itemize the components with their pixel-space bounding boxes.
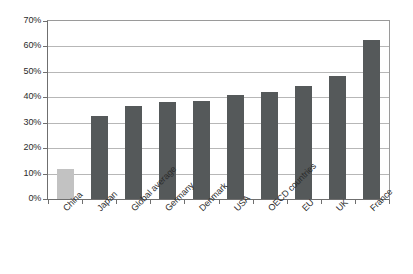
y-tick-label: 60% — [1, 41, 41, 50]
y-tick-mark — [43, 123, 47, 124]
x-tick-mark — [116, 200, 117, 204]
x-tick-mark — [355, 200, 356, 204]
x-tick-mark — [287, 200, 288, 204]
y-tick-mark — [43, 174, 47, 175]
y-tick-mark — [43, 46, 47, 47]
bar — [261, 92, 278, 199]
y-tick-mark — [43, 72, 47, 73]
x-tick-mark — [321, 200, 322, 204]
x-tick-mark — [150, 200, 151, 204]
y-tick-mark — [43, 21, 47, 22]
bar — [329, 76, 346, 199]
bar-slot — [219, 21, 253, 199]
bar — [227, 95, 244, 199]
y-tick-label: 0% — [1, 194, 41, 203]
bar-slot — [321, 21, 355, 199]
x-tick-mark — [82, 200, 83, 204]
y-tick-mark — [43, 148, 47, 149]
x-tick-mark — [253, 200, 254, 204]
y-tick-label: 50% — [1, 67, 41, 76]
bar-slot — [184, 21, 218, 199]
y-tick-label: 20% — [1, 143, 41, 152]
bar-slot — [82, 21, 116, 199]
bar — [363, 40, 380, 199]
bars-layer — [48, 21, 389, 199]
bar — [193, 101, 210, 199]
x-tick-mark — [389, 200, 390, 204]
x-tick-mark — [184, 200, 185, 204]
bar-slot — [116, 21, 150, 199]
bar — [125, 106, 142, 199]
x-tick-mark — [48, 200, 49, 204]
y-tick-mark — [43, 199, 47, 200]
y-tick-label: 70% — [1, 16, 41, 25]
y-tick-label: 10% — [1, 169, 41, 178]
bar-slot — [48, 21, 82, 199]
y-tick-label: 30% — [1, 118, 41, 127]
bar-slot — [355, 21, 389, 199]
y-tick-label: 40% — [1, 92, 41, 101]
y-tick-mark — [43, 97, 47, 98]
bar-slot — [253, 21, 287, 199]
x-tick-mark — [219, 200, 220, 204]
bar-chart: 0%10%20%30%40%50%60%70% ChinaJapanGlobal… — [0, 0, 413, 274]
bar — [91, 116, 108, 199]
